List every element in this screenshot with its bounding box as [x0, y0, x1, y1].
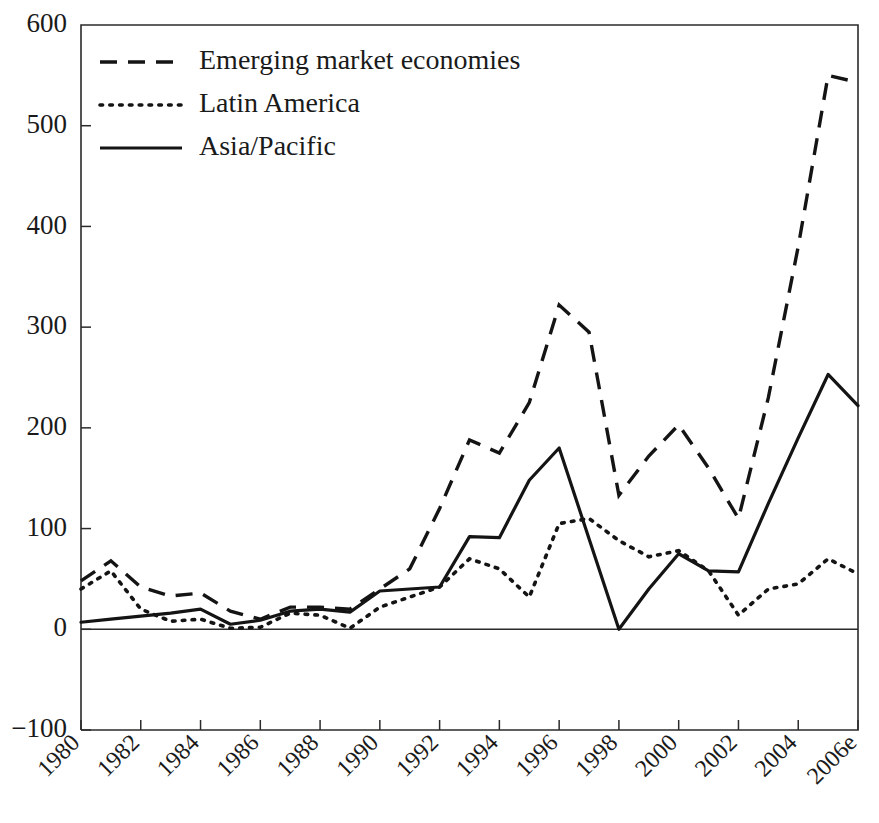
x-axis-tick-labels: 1980198219841986198819901992199419961998… — [32, 729, 861, 789]
y-tick-label: 500 — [27, 109, 68, 139]
y-tick-label: 200 — [27, 411, 68, 441]
series-line-latin-america — [81, 519, 858, 629]
x-tick-label: 1992 — [391, 729, 443, 781]
y-axis-ticks — [81, 126, 91, 730]
chart-legend: Emerging market economiesLatin AmericaAs… — [100, 44, 520, 161]
series-layer — [81, 75, 858, 629]
legend-label: Latin America — [199, 87, 361, 118]
x-tick-label: 2006e — [802, 729, 862, 789]
legend-label: Emerging market economies — [199, 44, 520, 75]
x-tick-label: 1982 — [92, 729, 144, 781]
legend-label: Asia/Pacific — [199, 130, 336, 161]
x-tick-label: 1990 — [331, 729, 383, 781]
y-tick-label: 400 — [27, 210, 68, 240]
x-tick-label: 1988 — [271, 729, 323, 781]
y-tick-label: 100 — [27, 512, 68, 542]
x-tick-label: 2002 — [690, 729, 742, 781]
y-tick-label: 0 — [54, 612, 68, 642]
x-tick-label: 1998 — [570, 729, 622, 781]
y-tick-label: 600 — [27, 8, 68, 38]
y-tick-label: 300 — [27, 310, 68, 340]
x-tick-label: 1986 — [212, 729, 264, 781]
plot-frame — [81, 25, 858, 730]
x-axis-ticks — [81, 720, 858, 730]
x-tick-label: 2000 — [630, 729, 682, 781]
line-chart: −1000100200300400500600 1980198219841986… — [0, 0, 879, 823]
x-tick-label: 1994 — [451, 729, 503, 781]
x-tick-label: 2004 — [749, 729, 801, 781]
axis-frame — [81, 25, 858, 730]
chart-container: −1000100200300400500600 1980198219841986… — [0, 0, 879, 823]
x-tick-label: 1984 — [152, 729, 204, 781]
x-tick-label: 1996 — [510, 729, 562, 781]
y-axis-tick-labels: −1000100200300400500600 — [11, 8, 67, 743]
